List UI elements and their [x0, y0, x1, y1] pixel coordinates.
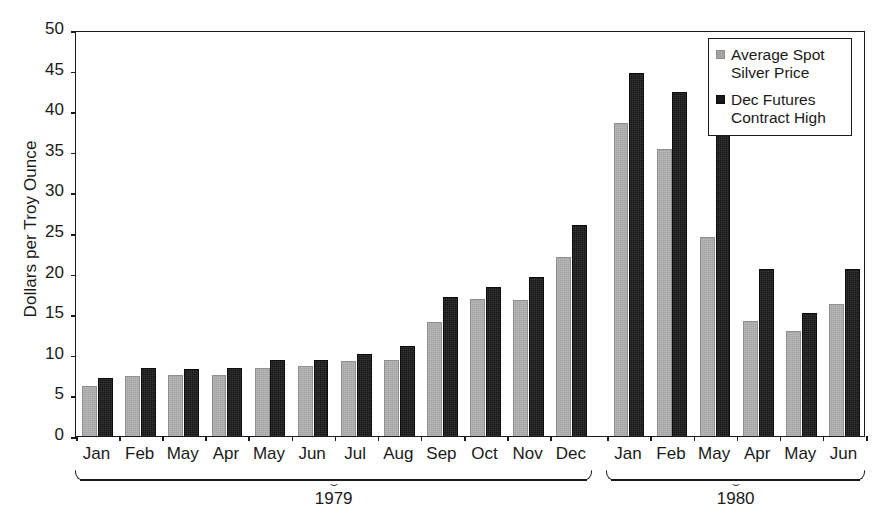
x-axis-tick [205, 436, 207, 441]
x-axis-tick [780, 436, 782, 441]
bar-spot-price [829, 304, 844, 436]
bar-spot-price [513, 300, 528, 436]
y-tick-label: 30 [45, 182, 64, 199]
bracket-right-end [583, 470, 592, 481]
x-axis-tick [248, 436, 250, 441]
legend-item-spot: Average SpotSilver Price [716, 46, 845, 82]
x-axis-month-label: Jan [75, 444, 118, 464]
y-tick-label: 40 [45, 101, 64, 118]
x-axis-tick [335, 436, 337, 441]
x-axis-month-label: Apr [204, 444, 247, 464]
y-tick-mark [71, 315, 76, 317]
y-tick-mark [71, 112, 76, 114]
x-axis-tick [119, 436, 121, 441]
x-axis-tick [550, 436, 552, 441]
y-tick-label: 0 [55, 426, 64, 443]
x-axis-month-label: May [693, 444, 736, 464]
y-tick-label: 50 [45, 20, 64, 37]
y-tick-mark [71, 31, 76, 33]
year-label: 1980 [606, 489, 865, 509]
bar-futures-high [98, 378, 113, 436]
y-tick-label: 5 [55, 385, 64, 402]
year-label: 1979 [75, 489, 592, 509]
bar-futures-high [141, 368, 156, 436]
x-axis-tick [76, 436, 78, 441]
bar-futures-high [716, 110, 731, 436]
y-tick-label: 10 [45, 345, 64, 362]
black-swatch-icon [716, 95, 725, 104]
bar-spot-price [255, 368, 270, 436]
x-axis-month-label: Dec [549, 444, 592, 464]
x-axis-tick [650, 436, 652, 441]
x-axis-month-label: Apr [736, 444, 779, 464]
bar-futures-high [357, 354, 372, 436]
bar-spot-price [82, 386, 97, 436]
bar-futures-high [270, 360, 285, 436]
bar-spot-price [341, 361, 356, 436]
bar-futures-high [529, 277, 544, 436]
bar-futures-high [759, 269, 774, 436]
silver-price-bar-chart: Dollars per Troy Ounce 05101520253035404… [0, 0, 875, 524]
bar-futures-high [572, 225, 587, 436]
gray-swatch-icon [716, 50, 725, 59]
bar-spot-price [556, 257, 571, 436]
x-axis-month-label: Nov [506, 444, 549, 464]
bar-futures-high [184, 369, 199, 436]
y-tick-mark [71, 193, 76, 195]
bar-spot-price [657, 149, 672, 436]
y-tick-label: 45 [45, 61, 64, 78]
x-axis-tick [464, 436, 466, 441]
x-axis-month-label: Jul [334, 444, 377, 464]
x-axis-month-label: May [161, 444, 204, 464]
y-axis-title: Dollars per Troy Ounce [21, 99, 41, 359]
bracket-center-nub [731, 479, 741, 486]
x-axis-month-label: Oct [463, 444, 506, 464]
x-axis-month-label: May [247, 444, 290, 464]
y-tick-label: 15 [45, 304, 64, 321]
x-axis-tick [694, 436, 696, 441]
y-tick-mark [71, 234, 76, 236]
x-axis-month-label: Jun [822, 444, 865, 464]
x-axis-tick [507, 436, 509, 441]
bar-spot-price [384, 360, 399, 436]
bar-spot-price [786, 331, 801, 436]
bar-spot-price [298, 366, 313, 436]
year-bracket [606, 470, 865, 481]
y-tick-mark [71, 275, 76, 277]
y-tick-mark [71, 356, 76, 358]
y-tick-label: 20 [45, 264, 64, 281]
bar-futures-high [400, 346, 415, 436]
bar-futures-high [443, 297, 458, 436]
y-tick-label: 35 [45, 142, 64, 159]
legend-item-futures-label: Dec FuturesContract High [731, 91, 826, 127]
bar-spot-price [212, 375, 227, 436]
bar-futures-high [845, 269, 860, 436]
legend-item-spot-label: Average SpotSilver Price [731, 46, 825, 82]
x-axis-tick [866, 436, 868, 441]
x-axis-month-label: Sep [420, 444, 463, 464]
bar-futures-high [227, 368, 242, 436]
bar-futures-high [314, 360, 329, 436]
bracket-center-nub [329, 479, 339, 486]
x-axis-month-label: Jan [606, 444, 649, 464]
bar-spot-price [427, 322, 442, 436]
x-axis-month-label: Jun [291, 444, 334, 464]
x-axis-tick [292, 436, 294, 441]
x-axis-tick [823, 436, 825, 441]
x-axis-month-label: May [779, 444, 822, 464]
y-tick-label: 25 [45, 223, 64, 240]
year-bracket [75, 470, 592, 481]
x-axis-month-label: Feb [118, 444, 161, 464]
bar-spot-price [700, 237, 715, 436]
legend-item-futures: Dec FuturesContract High [716, 91, 845, 127]
bar-spot-price [470, 299, 485, 436]
bar-spot-price [168, 375, 183, 436]
x-axis-tick [737, 436, 739, 441]
bar-futures-high [486, 287, 501, 436]
bar-spot-price [614, 123, 629, 436]
bar-futures-high [629, 73, 644, 436]
y-tick-mark [71, 396, 76, 398]
x-axis-tick [607, 436, 609, 441]
bar-spot-price [743, 321, 758, 436]
chart-legend: Average SpotSilver Price Dec FuturesCont… [708, 38, 852, 136]
